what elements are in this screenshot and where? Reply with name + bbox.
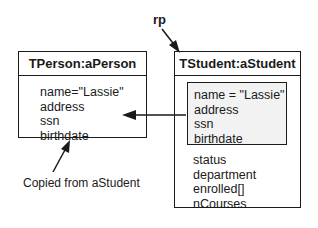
annotation-arrow-icon: [53, 140, 70, 172]
pointer-arrow-icon: [162, 29, 180, 53]
arrows-layer: [0, 0, 318, 228]
copy-arrow-icon: [122, 110, 186, 120]
